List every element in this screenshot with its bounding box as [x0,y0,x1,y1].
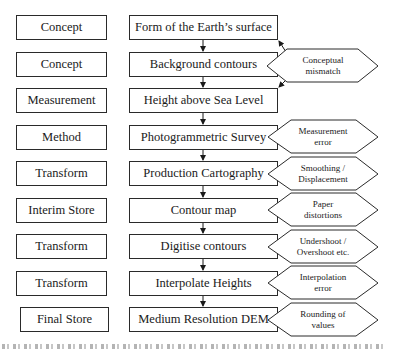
step-label: Digitise contours [161,239,247,254]
category-box-method: Method [16,125,107,150]
error-label-line1: Undershoot / [300,236,347,247]
error-label-line1: Conceptual [303,55,344,66]
category-box-concept-2: Concept [16,52,107,77]
category-label: Concept [41,57,83,72]
error-label-line2: error [314,137,332,148]
step-box-interpolate-heights: Interpolate Heights [129,271,278,296]
category-label: Interim Store [28,203,94,218]
error-label-line2: distortions [304,210,342,221]
step-box-background-contours: Background contours [129,52,278,77]
error-label-line1: Rounding of [300,309,345,320]
error-label-line2: error [314,283,332,294]
step-box-photogrammetric: Photogrammetric Survey [129,125,278,150]
category-label: Concept [41,20,83,35]
step-box-production-carto: Production Cartography [129,161,278,186]
step-label: Interpolate Heights [155,276,251,291]
step-label: Contour map [171,203,237,218]
category-box-concept-1: Concept [16,15,107,40]
step-label: Background contours [150,57,257,72]
step-box-height-sea-level: Height above Sea Level [129,88,278,113]
step-label: Form of the Earth’s surface [135,20,272,35]
category-box-final-store: Final Store [20,307,109,332]
category-box-transform-3: Transform [16,271,107,296]
error-label-line2: values [312,320,335,331]
error-label-line2: mismatch [306,66,341,77]
category-box-transform-1: Transform [16,161,107,186]
caption-fragment [2,344,387,349]
category-box-interim-store: Interim Store [16,198,107,223]
step-label: Height above Sea Level [144,93,264,108]
step-box-digitise-contours: Digitise contours [129,234,278,259]
step-box-medium-res-dem: Medium Resolution DEM [129,307,278,332]
error-hexagon-interpolation-error: Interpolationerror [267,266,379,300]
step-box-contour-map: Contour map [129,198,278,223]
error-hexagon-undershoot-overshoot: Undershoot /Overshoot etc. [267,230,379,264]
category-label: Transform [35,166,87,181]
error-label-line2: Displacement [298,174,347,185]
category-label: Method [42,130,81,145]
clipped-caption [0,343,395,349]
error-label-line2: Overshoot etc. [297,247,349,258]
step-label: Medium Resolution DEM [138,312,269,327]
step-label: Production Cartography [143,166,263,181]
error-hexagon-paper-distortions: Paperdistortions [267,193,379,227]
error-label-line1: Measurement [299,126,348,137]
error-hexagon-conceptual-mismatch: Conceptualmismatch [267,49,379,83]
category-box-measurement: Measurement [16,88,107,113]
error-hexagon-measurement-error: Measurementerror [267,120,379,154]
category-label: Transform [35,239,87,254]
category-box-transform-2: Transform [16,234,107,259]
error-label-line1: Paper [313,199,334,210]
error-label-line1: Smoothing / [301,163,345,174]
step-box-earth-surface: Form of the Earth’s surface [129,15,278,40]
category-label: Measurement [27,93,95,108]
error-hexagon-smoothing-displacement: Smoothing /Displacement [267,157,379,191]
category-label: Final Store [37,312,92,327]
error-hexagon-rounding-of-values: Rounding ofvalues [267,303,379,337]
step-label: Photogrammetric Survey [141,130,266,145]
error-label-line1: Interpolation [300,272,347,283]
dem-error-flow-diagram: Concept Concept Measurement Method Trans… [0,0,395,349]
category-label: Transform [35,276,87,291]
